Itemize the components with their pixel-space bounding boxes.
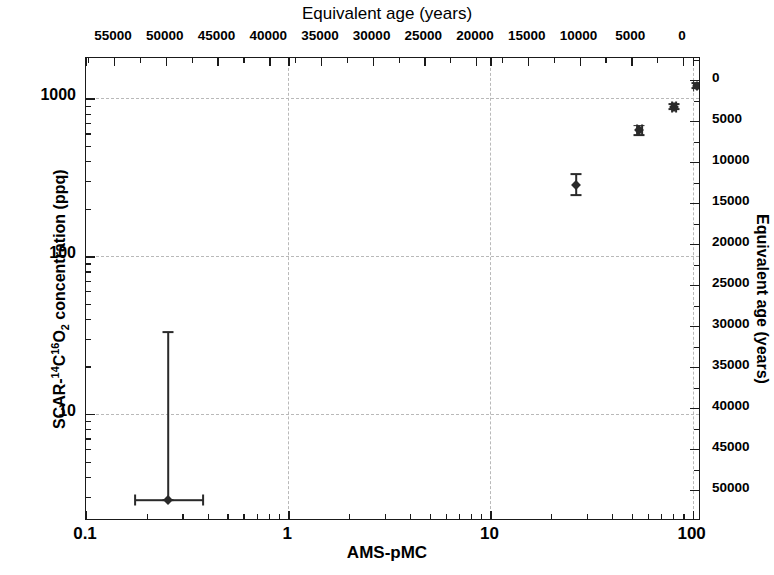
y-axis-title-sub-2: 2 — [59, 324, 71, 330]
x-tick-minor — [147, 514, 148, 519]
x-tick-minor — [349, 514, 350, 519]
y-axis-title-sup-16: 16 — [49, 343, 61, 355]
top-tick-major — [424, 58, 425, 66]
x-tick-minor — [648, 514, 649, 519]
right-tick-label: 45000 — [712, 439, 774, 454]
top-tick-minor — [399, 58, 400, 63]
plot-inner — [86, 58, 699, 519]
y-tick-major — [86, 256, 95, 257]
y-tick-minor — [86, 146, 91, 147]
gridline-horizontal — [86, 414, 699, 415]
y-tick-label: 100 — [0, 244, 76, 262]
x-tick-minor — [227, 514, 228, 519]
chart-figure: Equivalent age (years) AMS-pMC SCAR-14C1… — [0, 0, 774, 575]
x-tick-minor — [430, 514, 431, 519]
right-tick-minor — [694, 306, 699, 307]
error-cap-bottom — [571, 194, 582, 196]
y-tick-minor — [86, 449, 91, 450]
top-tick-major — [373, 58, 374, 66]
x-tick-minor — [587, 514, 588, 519]
top-tick-label: 0 — [637, 28, 727, 43]
top-tick-minor — [192, 58, 193, 63]
error-cap-top — [571, 173, 582, 175]
x-tick-minor — [471, 514, 472, 519]
x-tick-major — [693, 511, 694, 519]
x-tick-minor — [410, 514, 411, 519]
error-cap-right — [202, 495, 204, 506]
right-tick-label: 15000 — [712, 193, 774, 208]
x-tick-minor — [269, 514, 270, 519]
y-tick-minor — [86, 429, 91, 430]
y-tick-minor — [86, 161, 91, 162]
y-tick-minor — [86, 291, 91, 292]
x-tick-minor — [279, 514, 280, 519]
right-tick-minor — [694, 265, 699, 266]
gridline-vertical — [288, 58, 289, 519]
gridline-vertical — [490, 58, 491, 519]
y-tick-minor — [86, 477, 91, 478]
x-tick-label: 0.1 — [45, 524, 125, 544]
top-tick-minor — [502, 58, 503, 63]
top-tick-major — [269, 58, 270, 66]
top-tick-minor — [243, 58, 244, 63]
y-tick-major — [86, 414, 95, 415]
top-tick-minor — [605, 58, 606, 63]
right-tick-minor — [694, 347, 699, 348]
error-cap-left — [134, 495, 136, 506]
x-tick-minor — [243, 514, 244, 519]
x-tick-major — [490, 511, 491, 519]
right-tick-major — [690, 162, 699, 163]
x-tick-minor — [459, 514, 460, 519]
error-cap-top — [163, 331, 174, 333]
y-tick-label: 10 — [0, 402, 76, 420]
y-tick-minor — [86, 133, 91, 134]
x-tick-major — [86, 511, 87, 519]
data-point-marker — [163, 495, 173, 505]
y-axis-title: SCAR-14C16O2 concentration (ppq) — [49, 89, 72, 509]
top-tick-minor — [140, 58, 141, 63]
y-tick-minor — [86, 497, 91, 498]
right-tick-major — [690, 285, 699, 286]
top-tick-companion — [490, 58, 491, 66]
right-tick-minor — [694, 388, 699, 389]
y-tick-minor — [86, 421, 91, 422]
data-point-marker — [571, 180, 581, 190]
y-tick-minor — [86, 271, 91, 272]
top-tick-minor — [347, 58, 348, 63]
y-tick-minor — [86, 366, 91, 367]
right-tick-minor — [694, 60, 699, 61]
y-tick-minor — [86, 106, 91, 107]
top-tick-minor — [554, 58, 555, 63]
right-tick-major — [690, 121, 699, 122]
top-tick-major — [528, 58, 529, 66]
y-tick-label: 1000 — [0, 86, 76, 104]
right-tick-label: 10000 — [712, 152, 774, 167]
top-tick-major — [683, 58, 684, 66]
error-bar-vertical — [167, 332, 169, 500]
gridline-horizontal — [86, 98, 699, 99]
right-tick-label: 25000 — [712, 275, 774, 290]
y-tick-minor — [86, 462, 91, 463]
gridline-horizontal — [86, 256, 699, 257]
right-tick-label: 50000 — [712, 480, 774, 495]
x-tick-minor — [385, 514, 386, 519]
right-tick-minor — [694, 183, 699, 184]
y-axis-title-o: O — [51, 330, 68, 342]
right-tick-label: 35000 — [712, 357, 774, 372]
y-tick-minor — [86, 123, 91, 124]
x-tick-minor — [257, 514, 258, 519]
x-tick-major — [288, 511, 289, 519]
y-tick-major — [86, 98, 95, 99]
x-tick-minor — [673, 514, 674, 519]
y-axis-title-c: C — [51, 355, 68, 367]
top-tick-major — [631, 58, 632, 66]
x-tick-minor — [446, 514, 447, 519]
right-tick-minor — [694, 429, 699, 430]
y-tick-minor — [86, 181, 91, 182]
x-tick-minor — [551, 514, 552, 519]
top-axis-title: Equivalent age (years) — [0, 4, 774, 24]
x-tick-minor — [182, 514, 183, 519]
x-tick-label: 100 — [652, 524, 732, 544]
x-tick-minor — [661, 514, 662, 519]
right-tick-major — [690, 203, 699, 204]
